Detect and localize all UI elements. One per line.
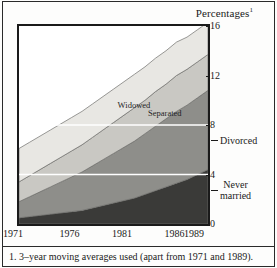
figure-container: Percentages1 Widowed Separated 0481216Di… bbox=[0, 0, 277, 268]
y-tick-mark-12 bbox=[206, 76, 210, 77]
callout-divorced: Divorced bbox=[220, 135, 257, 146]
y-tick-mark-8 bbox=[206, 125, 210, 126]
y-tick-4: 4 bbox=[210, 170, 215, 180]
y-tick-label-8: 8 bbox=[210, 119, 215, 130]
x-axis: 19711976198119861989 bbox=[0, 228, 277, 244]
footnote-text: 1. 3–year moving averages used (apart fr… bbox=[9, 250, 253, 263]
x-tick-label-1971: 1971 bbox=[3, 228, 23, 240]
y-tick-label-16: 16 bbox=[210, 20, 220, 31]
chart-header: Percentages1 bbox=[0, 4, 277, 22]
x-tick-label-1981: 1981 bbox=[112, 228, 132, 240]
footnote-divider bbox=[3, 246, 274, 247]
callout-dash-never bbox=[211, 190, 218, 191]
series-label-widowed: Widowed bbox=[118, 101, 151, 110]
y-tick-label-4: 4 bbox=[210, 169, 215, 180]
callout-label-line2: married bbox=[220, 190, 251, 201]
y-tick-12: 12 bbox=[210, 71, 220, 81]
x-tick-label-1976: 1976 bbox=[60, 228, 80, 240]
y-tick-mark-0 bbox=[206, 224, 210, 225]
series-label-separated: Separated bbox=[148, 109, 182, 118]
y-tick-label-12: 12 bbox=[210, 70, 220, 81]
y-tick-8: 8 bbox=[210, 120, 215, 130]
axis-title-footnote-marker: 1 bbox=[249, 6, 253, 14]
callout-dash-divorced bbox=[211, 140, 218, 141]
y-tick-16: 16 bbox=[210, 21, 220, 31]
y-tick-mark-16 bbox=[206, 26, 210, 27]
x-tick-label-1989: 1989 bbox=[184, 228, 204, 240]
y-axis: 0481216DivorcedNevermarried bbox=[210, 24, 270, 226]
plot-area: Widowed Separated bbox=[17, 24, 210, 226]
axis-title: Percentages1 bbox=[196, 6, 253, 19]
callout-never: Nevermarried bbox=[220, 179, 251, 201]
callout-label-line1: Never bbox=[220, 179, 251, 190]
axis-title-text: Percentages bbox=[196, 7, 250, 19]
x-tick-label-1986: 1986 bbox=[165, 228, 185, 240]
stacked-area-chart bbox=[19, 26, 208, 224]
y-tick-mark-4 bbox=[206, 175, 210, 176]
